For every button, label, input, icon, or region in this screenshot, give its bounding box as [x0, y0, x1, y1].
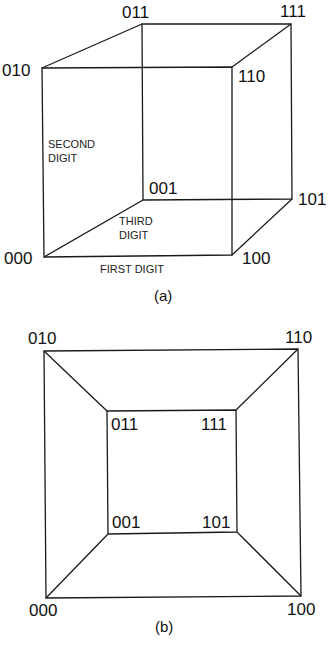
- vertex-label-a-001: 001: [149, 180, 177, 197]
- axis-label-third-digit: THIRD DIGIT: [119, 215, 153, 243]
- axis-label-third-digit-line2: DIGIT: [119, 229, 153, 243]
- vertex-label-b-111: 111: [201, 416, 227, 433]
- axis-label-second-digit-line1: SECOND: [48, 138, 95, 152]
- vertex-label-a-110: 110: [238, 68, 265, 85]
- cube-3d-diagram: [0, 0, 330, 651]
- axis-label-third-digit-line1: THIRD: [119, 215, 153, 229]
- axis-label-first-digit: FIRST DIGIT: [100, 263, 164, 277]
- vertex-label-b-001: 001: [112, 514, 140, 531]
- vertex-label-a-101: 101: [298, 191, 326, 208]
- axis-label-second-digit: SECOND DIGIT: [48, 138, 95, 166]
- vertex-label-a-000: 000: [4, 250, 32, 267]
- vertex-label-b-110: 110: [285, 329, 312, 346]
- vertex-label-a-100: 100: [242, 250, 270, 267]
- vertex-label-b-100: 100: [287, 601, 315, 618]
- vertex-label-a-111: 111: [280, 3, 306, 20]
- vertex-label-a-010: 010: [2, 62, 30, 79]
- caption-a: (a): [154, 287, 172, 304]
- vertex-label-b-101: 101: [202, 514, 230, 531]
- vertex-label-b-000: 000: [29, 602, 57, 619]
- vertex-label-b-011: 011: [111, 416, 138, 433]
- vertex-label-a-011: 011: [122, 4, 149, 21]
- vertex-label-b-010: 010: [28, 330, 56, 347]
- caption-b: (b): [155, 618, 173, 635]
- axis-label-second-digit-line2: DIGIT: [48, 152, 95, 166]
